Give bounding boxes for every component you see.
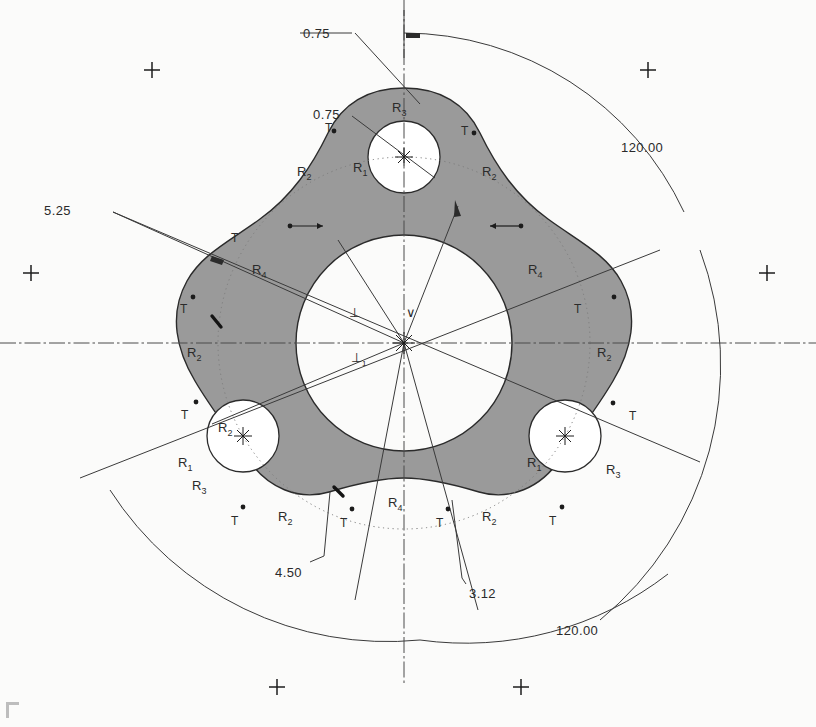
- constraint-symbol-perp-upper: ⊥: [349, 305, 360, 323]
- radius-label-r2-bottom-left: R2: [278, 509, 292, 527]
- dimension-label-d-top-075[interactable]: 0.75: [303, 26, 330, 41]
- radius-index: 2: [491, 517, 496, 527]
- tangency-label-t-bot-right: T: [549, 514, 556, 528]
- radius-label-r2-mid-right: R2: [597, 345, 611, 363]
- radius-label-r2-bottom-right: R2: [482, 509, 496, 527]
- constraint-glyph: ∨: [406, 305, 416, 320]
- radius-index: 4: [261, 270, 266, 280]
- radius-index: 2: [606, 353, 611, 363]
- dimension-label-d-angle-bottom[interactable]: 120.00: [556, 623, 598, 638]
- radius-index: 1: [536, 463, 541, 473]
- dimension-label-d-left-525[interactable]: 5.25: [44, 203, 71, 218]
- radius-base: R: [252, 262, 261, 277]
- tangency-label-t-mid-left: T: [180, 302, 187, 316]
- radius-base: R: [297, 164, 306, 179]
- constraint-symbol-perp-lower: ⊥1: [351, 350, 366, 368]
- radius-base: R: [482, 509, 491, 524]
- radius-base: R: [218, 420, 227, 435]
- tangency-label-t-top-right: T: [461, 124, 468, 138]
- radius-label-r2-bl-hole: R2: [218, 420, 232, 438]
- radius-label-r3-br: R3: [606, 462, 620, 480]
- radius-index: 3: [201, 486, 206, 496]
- radius-base: R: [178, 455, 187, 470]
- radius-base: R: [388, 495, 397, 510]
- radius-label-r4-left: R4: [252, 262, 266, 280]
- radius-label-r3-top: R3: [392, 100, 406, 118]
- constraint-symbol-vee-mark: ∨: [406, 305, 416, 323]
- radius-label-r4-bottom: R4: [388, 495, 402, 513]
- radius-label-r3-bl: R3: [192, 478, 206, 496]
- tangency-label-t-bot-left: T: [231, 514, 238, 528]
- constraint-index: 1: [362, 359, 366, 368]
- dimension-label-d-angle-top[interactable]: 120.00: [621, 140, 663, 155]
- radius-index: 2: [196, 353, 201, 363]
- tangency-label-t-top-left: T: [325, 121, 332, 135]
- radius-index: 4: [537, 270, 542, 280]
- radius-base: R: [527, 455, 536, 470]
- tangency-label-t-bot-mid-l: T: [340, 516, 347, 530]
- radius-index: 1: [362, 168, 367, 178]
- tangency-label-t-mid-right: T: [574, 302, 581, 316]
- radius-base: R: [192, 478, 201, 493]
- radius-index: 2: [491, 172, 496, 182]
- part-body-shaded: [0, 0, 816, 727]
- constraint-glyph: ⊥: [351, 350, 362, 365]
- radius-index: 2: [306, 172, 311, 182]
- cad-drawing-canvas: 0.750.755.254.503.12120.00120.00 R3R1R2R…: [0, 0, 816, 727]
- radius-base: R: [597, 345, 606, 360]
- radius-label-r1-br: R1: [527, 455, 541, 473]
- radius-index: 4: [397, 503, 402, 513]
- radius-label-r2-top-left: R2: [297, 164, 311, 182]
- radius-base: R: [392, 100, 401, 115]
- cad-vector-layer: [0, 0, 816, 727]
- radius-base: R: [528, 262, 537, 277]
- tangency-label-t-low-right: T: [629, 409, 636, 423]
- constraint-glyph: ⊥: [349, 305, 360, 320]
- radius-base: R: [187, 345, 196, 360]
- dimension-label-d-bottom-312[interactable]: 3.12: [469, 586, 496, 601]
- radius-index: 1: [187, 463, 192, 473]
- radius-index: 2: [227, 428, 232, 438]
- radius-index: 2: [287, 517, 292, 527]
- radius-base: R: [353, 160, 362, 175]
- radius-base: R: [606, 462, 615, 477]
- tangency-label-t-low-left: T: [181, 408, 188, 422]
- tangency-label-t-upper-left: T: [231, 231, 238, 245]
- radius-base: R: [482, 164, 491, 179]
- radius-label-r2-top-right: R2: [482, 164, 496, 182]
- dimension-label-d-bottom-450[interactable]: 4.50: [275, 565, 302, 580]
- radius-base: R: [278, 509, 287, 524]
- tangency-label-t-bot-mid-r: T: [436, 516, 443, 530]
- radius-index: 3: [615, 470, 620, 480]
- dimension-label-d-inner-075[interactable]: 0.75: [313, 107, 340, 122]
- radius-label-r4-right: R4: [528, 262, 542, 280]
- radius-index: 3: [401, 108, 406, 118]
- radius-label-r2-mid-left: R2: [187, 345, 201, 363]
- radius-label-r1-top: R1: [353, 160, 367, 178]
- radius-label-r1-bl: R1: [178, 455, 192, 473]
